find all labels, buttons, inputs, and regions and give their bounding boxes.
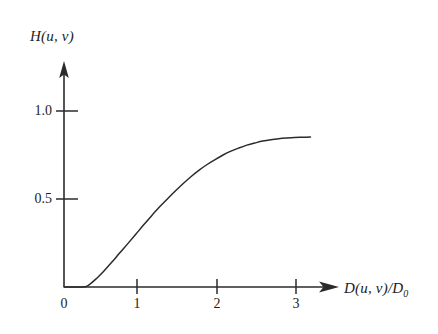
- figure-container: H(u, v) D(u, v)/D0 1.0 0.5 0 1 2 3: [0, 0, 438, 334]
- x-tick-label-2: 2: [207, 296, 227, 312]
- x-tick-label-3: 3: [286, 296, 306, 312]
- x-tick-label-1: 1: [127, 296, 147, 312]
- x-tick-label-0: 0: [54, 296, 74, 312]
- x-axis-label-subscript: 0: [403, 288, 408, 299]
- transfer-function-curve: [64, 137, 310, 287]
- x-axis-label-main: D(u, v)/D: [344, 280, 403, 296]
- x-axis-label: D(u, v)/D0: [344, 280, 408, 299]
- y-tick-label-1_0: 1.0: [18, 103, 52, 119]
- y-axis-label: H(u, v): [30, 28, 74, 45]
- y-tick-label-0_5: 0.5: [18, 191, 52, 207]
